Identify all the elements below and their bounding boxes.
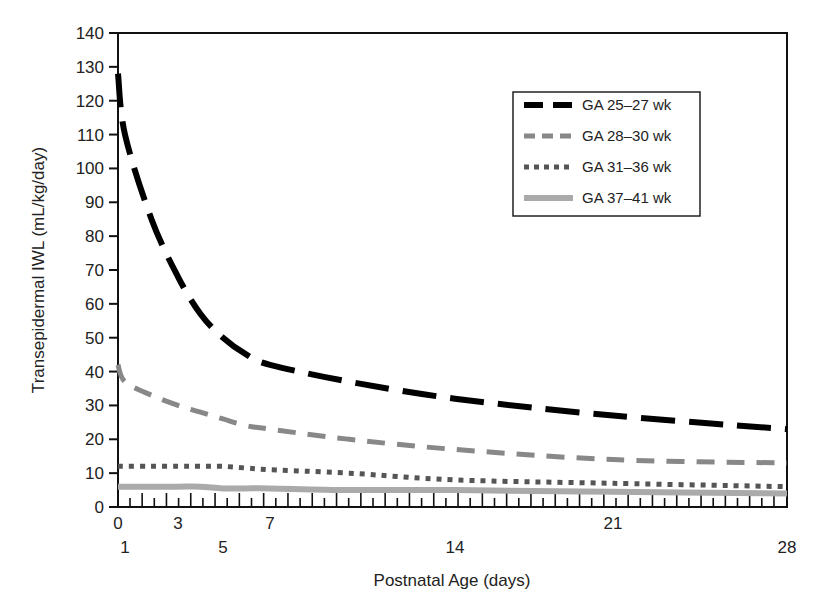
y-tick-label: 40 [85,363,104,382]
y-tick-label: 50 [85,329,104,348]
series-line-ga-31-36-wk [118,466,787,486]
y-tick-label: 0 [95,498,104,517]
x-tick-label: 14 [446,538,465,557]
x-axis: 03721151428 [113,493,796,557]
series-line-ga-37-41-wk [118,487,787,494]
x-tick-label: 28 [778,538,797,557]
y-tick-label: 20 [85,430,104,449]
y-axis: 0102030405060708090100110120130140 [76,24,118,517]
y-tick-label: 130 [76,58,104,77]
y-tick-label: 60 [85,295,104,314]
x-tick-label: 5 [218,538,227,557]
legend-label: GA 31–36 wk [582,158,672,175]
legend-label: GA 28–30 wk [582,127,672,144]
y-tick-label: 120 [76,92,104,111]
y-tick-label: 110 [77,126,104,145]
y-tick-label: 70 [85,261,104,280]
legend-label: GA 37–41 wk [582,189,672,206]
x-tick-label: 3 [173,514,182,533]
legend-label: GA 25–27 wk [582,96,672,113]
x-tick-label: 21 [604,514,623,533]
iwl-chart: 0102030405060708090100110120130140 03721… [0,0,825,609]
y-tick-label: 30 [85,396,104,415]
y-tick-label: 100 [76,159,104,178]
y-axis-title: Transepidermal IWL (mL/kg/day) [29,147,48,393]
x-tick-label: 0 [113,514,122,533]
y-tick-label: 10 [85,464,104,483]
y-tick-label: 80 [85,227,104,246]
legend: GA 25–27 wkGA 28–30 wkGA 31–36 wkGA 37–4… [513,92,700,216]
x-tick-label: 1 [120,538,129,557]
y-tick-label: 140 [76,24,104,43]
y-tick-label: 90 [85,193,104,212]
x-axis-title: Postnatal Age (days) [374,571,531,590]
x-tick-label: 7 [265,514,274,533]
series-line-ga-28-30-wk [118,365,787,463]
